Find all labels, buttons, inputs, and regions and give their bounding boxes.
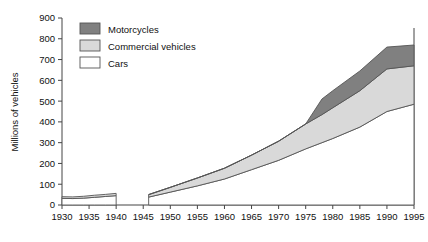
y-axis: 0100200300400500600700800900 — [39, 12, 62, 210]
x-tick-label: 1975 — [295, 211, 316, 222]
x-tick-label: 1970 — [268, 211, 289, 222]
x-tick-label: 1960 — [214, 211, 235, 222]
y-tick-label: 900 — [39, 12, 55, 23]
legend-label-commercial-vehicles: Commercial vehicles — [108, 41, 196, 52]
y-tick-label: 700 — [39, 54, 55, 65]
x-tick-label: 1985 — [349, 211, 370, 222]
legend-label-motorcycles: Motorcycles — [108, 24, 159, 35]
x-tick-label: 1990 — [376, 211, 397, 222]
x-tick-label: 1955 — [187, 211, 208, 222]
y-tick-label: 200 — [39, 158, 55, 169]
y-tick-label: 500 — [39, 96, 55, 107]
x-tick-label: 1945 — [133, 211, 154, 222]
legend-swatch-cars — [80, 57, 100, 68]
legend-swatch-commercial-vehicles — [80, 40, 100, 51]
legend-label-cars: Cars — [108, 58, 128, 69]
y-tick-label: 600 — [39, 75, 55, 86]
x-tick-label: 1980 — [322, 211, 343, 222]
y-tick-label: 0 — [50, 199, 55, 210]
x-tick-label: 1965 — [241, 211, 262, 222]
x-tick-label: 1950 — [160, 211, 181, 222]
x-tick-label: 1940 — [106, 211, 127, 222]
y-tick-label: 800 — [39, 33, 55, 44]
y-tick-label: 300 — [39, 137, 55, 148]
x-tick-label: 1935 — [79, 211, 100, 222]
x-tick-label: 1995 — [403, 211, 424, 222]
y-tick-label: 400 — [39, 116, 55, 127]
x-tick-label: 1930 — [51, 211, 72, 222]
y-tick-label: 100 — [39, 179, 55, 190]
legend-swatch-motorcycles — [80, 23, 100, 34]
chart-canvas: 0100200300400500600700800900 19301935194… — [0, 0, 428, 242]
chart-legend: MotorcyclesCommercial vehiclesCars — [80, 23, 196, 69]
stacked-areas — [62, 45, 414, 205]
vehicle-stacked-area-chart: 0100200300400500600700800900 19301935194… — [0, 0, 428, 242]
y-axis-title: Millions of vehicles — [9, 72, 20, 151]
